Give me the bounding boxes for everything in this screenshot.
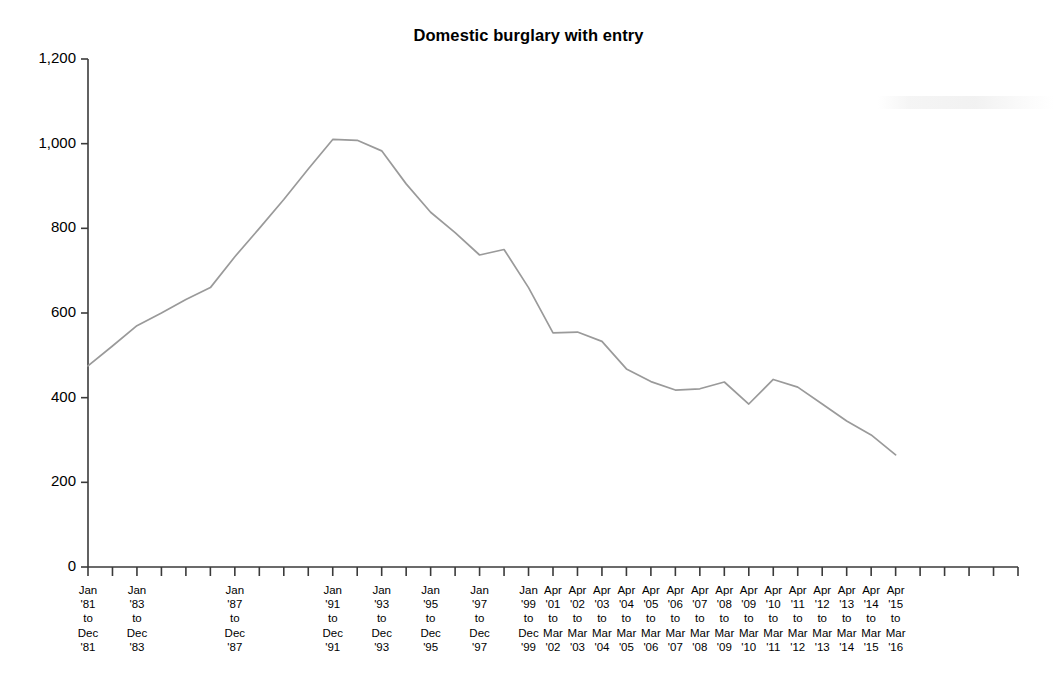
x-tick-label-line: Jan — [65, 583, 111, 597]
y-axis-tick-label: 400 — [6, 388, 76, 405]
x-tick-label-line: '83 — [114, 597, 160, 611]
x-axis-tick-label: Jan'95toDec'95 — [408, 583, 454, 654]
x-tick-label-line: Dec — [114, 626, 160, 640]
x-tick-label-line: '87 — [212, 597, 258, 611]
x-tick-label-line: to — [359, 611, 405, 625]
x-tick-label-line: Jan — [114, 583, 160, 597]
x-tick-label-line: Dec — [457, 626, 503, 640]
x-axis-tick-label: Apr'15toMar'16 — [873, 583, 919, 654]
x-tick-label-line: Jan — [212, 583, 258, 597]
x-tick-label-line: Jan — [359, 583, 405, 597]
y-axis-tick-label: 1,200 — [6, 49, 76, 66]
y-axis-tick-label: 200 — [6, 472, 76, 489]
x-tick-label-line: Dec — [408, 626, 454, 640]
y-axis-tick-label: 0 — [6, 557, 76, 574]
data-series-group — [88, 139, 896, 454]
x-tick-label-line: '83 — [114, 640, 160, 654]
x-tick-label-line: Jan — [310, 583, 356, 597]
x-tick-label-line: to — [114, 611, 160, 625]
x-tick-label-line: '87 — [212, 640, 258, 654]
x-tick-label-line: to — [457, 611, 503, 625]
x-tick-label-line: '95 — [408, 640, 454, 654]
y-axis-ticks — [81, 59, 88, 567]
x-tick-label-line: to — [65, 611, 111, 625]
x-tick-label-line: Dec — [65, 626, 111, 640]
x-tick-label-line: to — [873, 611, 919, 625]
x-tick-label-line: '81 — [65, 640, 111, 654]
x-axis-tick-label: Jan'93toDec'93 — [359, 583, 405, 654]
y-axis-tick-label: 800 — [6, 218, 76, 235]
y-axis-tick-label: 600 — [6, 303, 76, 320]
x-tick-label-line: to — [310, 611, 356, 625]
x-tick-label-line: Mar — [873, 626, 919, 640]
x-axis-tick-label: Jan'91toDec'91 — [310, 583, 356, 654]
x-tick-label-line: '97 — [457, 597, 503, 611]
chart-axes — [88, 59, 1018, 567]
x-tick-label-line: Jan — [408, 583, 454, 597]
x-tick-label-line: to — [408, 611, 454, 625]
x-axis-tick-label: Jan'97toDec'97 — [457, 583, 503, 654]
x-axis-tick-label: Jan'87toDec'87 — [212, 583, 258, 654]
x-tick-label-line: Jan — [457, 583, 503, 597]
x-axis-tick-label: Jan'83toDec'83 — [114, 583, 160, 654]
x-tick-label-line: Dec — [359, 626, 405, 640]
x-tick-label-line: '95 — [408, 597, 454, 611]
x-tick-label-line: '16 — [873, 640, 919, 654]
series-line-domestic-burglary — [88, 139, 896, 454]
chart-page: Domestic burglary with entry 02004006008… — [0, 0, 1057, 694]
x-tick-label-line: '15 — [873, 597, 919, 611]
x-tick-label-line: '91 — [310, 597, 356, 611]
x-tick-label-line: Dec — [212, 626, 258, 640]
x-tick-label-line: Dec — [310, 626, 356, 640]
x-tick-label-line: '91 — [310, 640, 356, 654]
x-tick-label-line: Apr — [873, 583, 919, 597]
x-tick-label-line: '97 — [457, 640, 503, 654]
x-tick-label-line: '93 — [359, 597, 405, 611]
x-tick-label-line: to — [212, 611, 258, 625]
y-axis-tick-label: 1,000 — [6, 134, 76, 151]
x-axis-ticks — [88, 567, 1018, 576]
x-tick-label-line: '93 — [359, 640, 405, 654]
x-tick-label-line: '81 — [65, 597, 111, 611]
x-axis-tick-label: Jan'81toDec'81 — [65, 583, 111, 654]
